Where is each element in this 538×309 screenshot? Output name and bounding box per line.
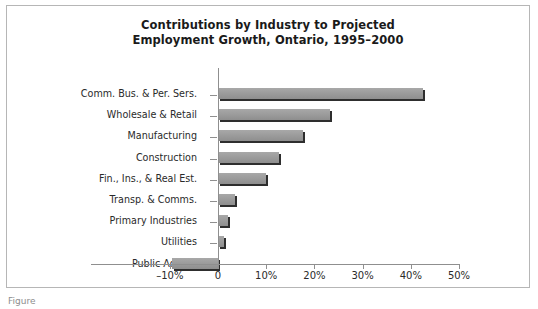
bar-row: Wholesale & Retail xyxy=(7,106,531,127)
x-axis-tick xyxy=(459,264,460,269)
x-axis-tick xyxy=(218,264,219,269)
category-tick-mark xyxy=(210,95,217,96)
bar xyxy=(218,152,279,163)
x-axis-tick-label: 20% xyxy=(294,270,334,281)
category-label: Primary Industries xyxy=(110,215,197,226)
category-label: Transp. & Comms. xyxy=(110,194,197,205)
bar-row: Comm. Bus. & Per. Sers. xyxy=(7,85,531,106)
category-label: Wholesale & Retail xyxy=(107,109,197,120)
category-tick-mark xyxy=(210,243,217,244)
bar-row: Fin., Ins., & Real Est. xyxy=(7,170,531,191)
figure-frame: Contributions by Industry to Projected E… xyxy=(6,5,530,288)
bar xyxy=(218,215,228,226)
bar xyxy=(218,88,423,99)
zero-axis-line xyxy=(218,68,219,265)
x-axis-tick-label: 0 xyxy=(198,270,238,281)
category-tick-mark xyxy=(210,180,217,181)
category-tick-mark xyxy=(210,116,217,117)
bar-row: Manufacturing xyxy=(7,127,531,148)
x-axis-tick xyxy=(266,264,267,269)
category-label: Utilities xyxy=(161,236,197,247)
bar xyxy=(218,130,303,141)
x-axis-line xyxy=(91,264,459,265)
x-axis-tick-label: 50% xyxy=(439,270,479,281)
category-label: Construction xyxy=(136,152,197,163)
x-axis-tick xyxy=(314,264,315,269)
category-label: Manufacturing xyxy=(128,130,197,141)
category-label: Fin., Ins., & Real Est. xyxy=(99,173,197,184)
category-tick-mark xyxy=(210,159,217,160)
bar-row: Utilities xyxy=(7,233,531,254)
bar xyxy=(218,173,266,184)
bar xyxy=(218,109,330,120)
bar-row: Transp. & Comms. xyxy=(7,191,531,212)
x-axis-tick xyxy=(411,264,412,269)
figure-caption-fragment: Figure xyxy=(8,296,128,308)
bar-row: Primary Industries xyxy=(7,212,531,233)
x-axis-tick-label: 30% xyxy=(343,270,383,281)
x-axis-tick-label: –10% xyxy=(150,270,190,281)
x-axis-tick xyxy=(363,264,364,269)
category-tick-mark xyxy=(210,137,217,138)
bar xyxy=(218,194,235,205)
category-tick-mark xyxy=(210,201,217,202)
plot-area: Comm. Bus. & Per. Sers.Wholesale & Retai… xyxy=(7,6,531,287)
x-axis-tick-label: 10% xyxy=(246,270,286,281)
category-label: Comm. Bus. & Per. Sers. xyxy=(81,88,197,99)
category-tick-mark xyxy=(210,222,217,223)
x-axis-tick xyxy=(170,264,171,269)
bar-row: Construction xyxy=(7,149,531,170)
x-axis-tick-label: 40% xyxy=(391,270,431,281)
